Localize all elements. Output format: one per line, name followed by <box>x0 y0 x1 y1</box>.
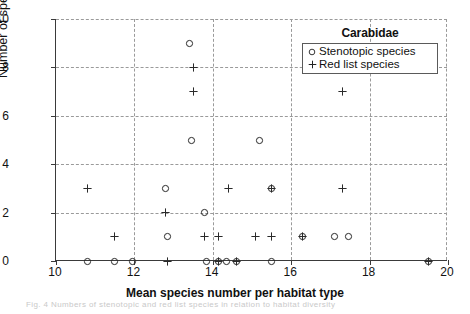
x-tick-label-12: 12 <box>113 266 153 278</box>
circle-data-point <box>232 257 241 266</box>
plus-data-point <box>298 232 307 241</box>
plus-data-point <box>189 87 198 96</box>
circle-data-point <box>344 232 353 241</box>
caption-remnant: Fig. 4 Numbers of stenotopic and red lis… <box>0 300 470 314</box>
plus-data-point <box>267 232 276 241</box>
circle-data-point <box>424 257 433 266</box>
tick-y-2 <box>51 213 56 214</box>
circle-data-point <box>255 136 264 145</box>
legend: Carabidae Stenotopic species Red list sp… <box>302 26 438 74</box>
tick-y-4 <box>51 164 56 165</box>
x-tick-label-18: 18 <box>349 266 389 278</box>
plus-data-point <box>214 232 223 241</box>
x-tick-label-14: 14 <box>192 266 232 278</box>
y-tick-label-2: 2 <box>0 207 9 219</box>
circle-data-point <box>83 257 92 266</box>
legend-label-stenotopic: Stenotopic species <box>319 45 416 58</box>
y-tick-label-4: 4 <box>0 158 9 170</box>
legend-box: Stenotopic species Red list species <box>302 43 438 74</box>
circle-data-point <box>267 257 276 266</box>
x-tick-label-10: 10 <box>35 266 75 278</box>
plus-data-point <box>163 257 172 266</box>
x-axis-title: Mean species number per habitat type <box>0 286 470 300</box>
gridline-right <box>446 19 447 260</box>
plus-data-point <box>200 232 209 241</box>
circle-data-point <box>298 232 307 241</box>
plus-data-point <box>83 184 92 193</box>
gridline-x-14 <box>213 19 214 260</box>
circle-marker-icon <box>306 46 318 58</box>
legend-label-redlist: Red list species <box>319 58 400 71</box>
gridline-x-12 <box>134 19 135 260</box>
tick-y-6 <box>51 116 56 117</box>
tick-y-8 <box>51 67 56 68</box>
plus-data-point <box>267 184 276 193</box>
plus-data-point <box>251 232 260 241</box>
gridline-y-2 <box>56 213 447 214</box>
circle-data-point <box>163 232 172 241</box>
legend-title: Carabidae <box>302 26 438 40</box>
plus-data-point <box>424 257 433 266</box>
x-tick-label-16: 16 <box>270 266 310 278</box>
plus-data-point <box>110 232 119 241</box>
circle-data-point <box>110 257 119 266</box>
legend-entry-redlist: Red list species <box>306 58 433 71</box>
tick-y-10 <box>51 19 56 20</box>
circle-data-point <box>161 184 170 193</box>
x-tick-label-20: 20 <box>427 266 467 278</box>
y-tick-label-6: 6 <box>0 110 9 122</box>
gridline-y-6 <box>56 116 447 117</box>
legend-entry-stenotopic: Stenotopic species <box>306 45 433 58</box>
circle-data-point <box>267 184 276 193</box>
circle-data-point <box>187 136 196 145</box>
plus-data-point <box>224 184 233 193</box>
plus-data-point <box>338 184 347 193</box>
gridline-top <box>56 19 447 20</box>
circle-data-point <box>330 232 339 241</box>
plus-data-point <box>338 87 347 96</box>
y-tick-label-0: 0 <box>0 255 9 267</box>
y-axis-title: Number of species <box>0 0 10 78</box>
plus-data-point <box>232 257 241 266</box>
circle-data-point <box>222 257 231 266</box>
gridline-x-16 <box>291 19 292 260</box>
gridline-y-4 <box>56 164 447 165</box>
plus-marker-icon <box>306 59 318 71</box>
scatter-plot-figure: 0246810 101214161820 Number of species M… <box>0 0 470 314</box>
circle-data-point <box>185 39 194 48</box>
